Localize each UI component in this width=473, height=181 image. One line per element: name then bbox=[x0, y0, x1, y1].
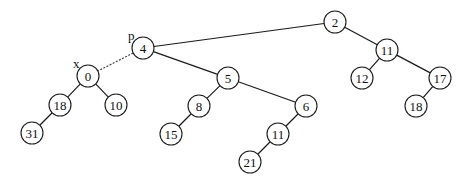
tree-node: 4 bbox=[132, 37, 154, 59]
tree-edge bbox=[68, 84, 81, 97]
pointer-labels-layer: px bbox=[73, 28, 135, 71]
node-label: 11 bbox=[272, 127, 285, 142]
tree-edge bbox=[423, 86, 433, 97]
tree-node: 5 bbox=[217, 67, 239, 89]
tree-edge bbox=[286, 114, 298, 126]
tree-edge bbox=[96, 84, 109, 97]
tree-edge bbox=[153, 52, 217, 75]
tree-node: 17 bbox=[429, 67, 451, 89]
tree-edge bbox=[207, 86, 220, 99]
tree-edge bbox=[238, 82, 295, 103]
tree-node: 8 bbox=[188, 95, 210, 117]
pointer-label-x: x bbox=[73, 56, 80, 71]
tree-edge bbox=[179, 114, 191, 126]
tree-diagram: 24111217180518108631151121 px bbox=[0, 0, 473, 181]
node-label: 21 bbox=[244, 155, 257, 170]
tree-node: 18 bbox=[405, 95, 427, 117]
node-label: 6 bbox=[303, 99, 310, 114]
tree-node: 15 bbox=[160, 123, 182, 145]
tree-node: 11 bbox=[267, 123, 289, 145]
node-label: 11 bbox=[381, 43, 394, 58]
tree-node: 18 bbox=[49, 94, 71, 116]
tree-node: 0 bbox=[77, 65, 99, 87]
tree-edge bbox=[40, 113, 52, 125]
tree-edge bbox=[154, 23, 324, 46]
tree-node: 11 bbox=[376, 39, 398, 61]
node-label: 4 bbox=[140, 41, 147, 56]
edges-layer bbox=[40, 23, 433, 154]
tree-edge bbox=[369, 58, 379, 70]
pointer-label-p: p bbox=[128, 28, 135, 43]
tree-edge bbox=[345, 27, 378, 45]
node-label: 8 bbox=[196, 99, 203, 114]
tree-node: 31 bbox=[21, 122, 43, 144]
node-label: 18 bbox=[54, 98, 67, 113]
tree-node: 6 bbox=[295, 95, 317, 117]
tree-edge bbox=[258, 142, 270, 154]
tree-edge bbox=[98, 53, 133, 71]
tree-node: 21 bbox=[239, 151, 261, 173]
node-label: 2 bbox=[332, 15, 339, 30]
node-label: 17 bbox=[434, 71, 448, 86]
tree-node: 2 bbox=[324, 11, 346, 33]
node-label: 10 bbox=[110, 98, 123, 113]
node-label: 5 bbox=[225, 71, 232, 86]
node-label: 31 bbox=[26, 126, 39, 141]
node-label: 12 bbox=[356, 71, 369, 86]
node-label: 0 bbox=[85, 69, 92, 84]
tree-node: 10 bbox=[105, 94, 127, 116]
tree-node: 12 bbox=[351, 67, 373, 89]
node-label: 18 bbox=[410, 99, 423, 114]
node-label: 15 bbox=[165, 127, 178, 142]
tree-edge bbox=[397, 55, 431, 73]
